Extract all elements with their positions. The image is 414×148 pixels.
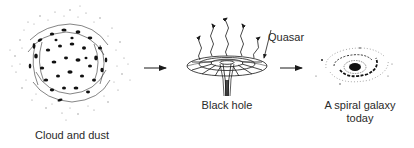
spiral-galaxy-label-line2: today [310,112,410,125]
galaxy-formation-diagram: Cloud and dust Black hole Quasar A spira… [0,0,414,148]
cloud-and-dust-illustration [10,6,131,121]
black-hole-label: Black hole [197,99,257,112]
diagram-graphics [0,0,414,148]
cloud-and-dust-label: Cloud and dust [22,129,122,142]
quasar-label: Quasar [268,31,304,44]
spiral-galaxy-label-line1: A spiral galaxy [310,99,410,112]
black-hole-illustration [187,18,271,96]
spiral-galaxy-illustration [315,47,392,85]
